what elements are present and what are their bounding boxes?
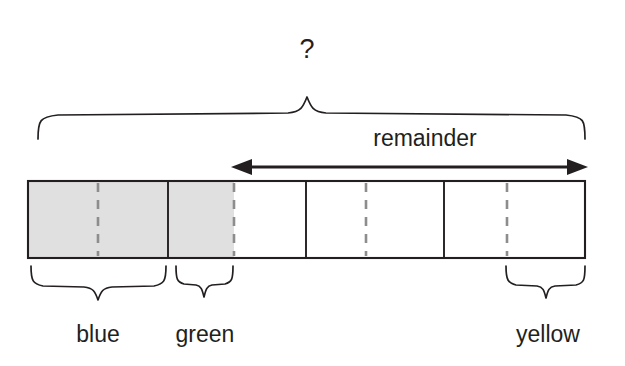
brace-green xyxy=(176,266,233,297)
brace-blue xyxy=(31,266,166,300)
brace-whole-bar xyxy=(38,97,585,139)
bar-unshaded-region xyxy=(234,181,585,258)
yellow-label: yellow xyxy=(516,321,580,347)
blue-label: blue xyxy=(76,321,119,347)
remainder-label: remainder xyxy=(373,125,477,151)
bar-shaded-region xyxy=(28,181,234,258)
brace-yellow xyxy=(506,266,585,298)
arrow-head-left xyxy=(231,159,252,175)
diagram-canvas: ? remainder xyxy=(0,0,625,366)
remainder-double-arrow xyxy=(231,159,588,175)
unknown-total-label: ? xyxy=(299,34,314,64)
tape-diagram-figure: ? remainder xyxy=(0,0,625,366)
green-label: green xyxy=(176,321,235,347)
arrow-head-right xyxy=(567,159,588,175)
